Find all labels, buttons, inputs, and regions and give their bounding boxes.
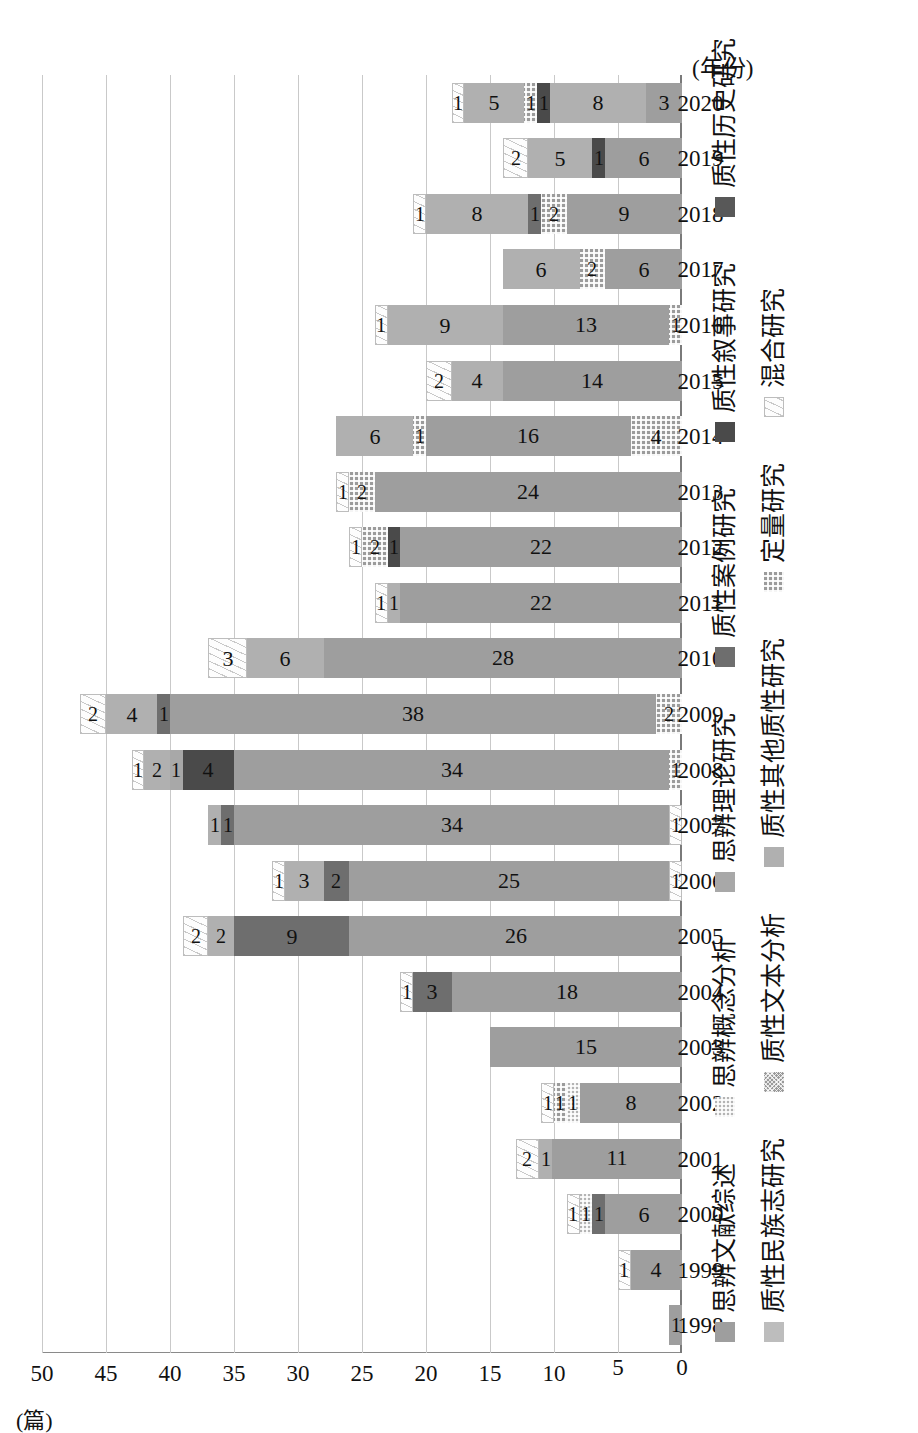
- bar-segment-value: 6: [638, 258, 649, 280]
- bar-segment-value: 1: [568, 1204, 578, 1224]
- bar-segment: 1: [375, 305, 388, 345]
- legend-label: 思辨概念分析: [712, 938, 737, 1088]
- bar-segment: 1: [618, 1250, 631, 1290]
- bar-segment: 1: [554, 1083, 567, 1123]
- bar-segment-value: 3: [222, 647, 233, 669]
- bar-segment: 9: [567, 194, 682, 234]
- bar-segment-value: 2: [88, 704, 98, 724]
- bar-segment: 22: [400, 583, 682, 623]
- bar-2011: 2211: [375, 583, 682, 623]
- bar-segment-value: 1: [671, 760, 681, 780]
- bar-segment: 2: [541, 194, 567, 234]
- bar-segment-value: 4: [472, 370, 483, 392]
- bar-segment: 1: [669, 1305, 682, 1345]
- bar-segment: 1: [539, 1139, 552, 1179]
- bar-segment: 5: [528, 138, 592, 178]
- bar-segment-value: 22: [530, 592, 552, 614]
- bar-segment: 4: [106, 694, 157, 734]
- x-tick-label-2003: 2003: [689, 1024, 712, 1070]
- legend-item-zxmzz[interactable]: 质性民族志研究: [761, 1138, 786, 1342]
- x-tick-label-2015: 2015: [689, 358, 712, 404]
- bar-2008: 1344121: [132, 750, 682, 790]
- bar-segment-value: 22: [530, 536, 552, 558]
- legend-label: 思辨理论研究: [712, 713, 737, 863]
- bar-segment-value: 4: [651, 1259, 662, 1281]
- bar-segment-value: 25: [498, 870, 520, 892]
- bar-1998: 1: [669, 1305, 682, 1345]
- legend-item-zxlsyj[interactable]: 质性历史研究: [712, 38, 737, 217]
- bar-segment: 1: [221, 805, 234, 845]
- bar-segment: 1: [388, 583, 401, 623]
- legend-label: 混合研究: [761, 288, 786, 388]
- legend-item-zxalyj[interactable]: 质性案例研究: [712, 488, 737, 667]
- bar-2004: 1831: [400, 972, 682, 1012]
- bar-segment: 1: [669, 861, 682, 901]
- bar-segment-value: 1: [338, 482, 348, 502]
- x-tick-label-2009: 2009: [689, 691, 712, 737]
- y-axis-title: (篇): [16, 1410, 53, 1432]
- bar-segment: 1: [580, 1194, 593, 1234]
- chart-legend: 思辨文献综述思辨概念分析思辨理论研究质性案例研究质性叙事研究质性历史研究质性民族…: [712, 72, 786, 1342]
- bar-segment: 1: [524, 83, 537, 123]
- legend-swatch-icon: [764, 397, 784, 417]
- bar-segment: 1: [541, 1083, 554, 1123]
- bar-segment: 13: [503, 305, 669, 345]
- bar-segment: 1: [452, 83, 465, 123]
- bar-1999: 41: [618, 1250, 682, 1290]
- gridline: [42, 75, 43, 1353]
- bar-segment-value: 1: [351, 537, 361, 557]
- y-tick-label: 45: [95, 1362, 118, 1385]
- bar-segment-value: 1: [376, 593, 386, 613]
- bar-segment: 1: [272, 861, 285, 901]
- legend-item-sbgnfx[interactable]: 思辨概念分析: [712, 938, 737, 1117]
- bar-segment-value: 2: [216, 926, 226, 946]
- bar-segment: 5: [464, 83, 524, 123]
- bar-segment-value: 1: [402, 982, 412, 1002]
- bar-segment-value: 5: [555, 147, 566, 169]
- legend-item-zxwbfx[interactable]: 质性文本分析: [761, 913, 786, 1092]
- bar-segment-value: 1: [530, 204, 540, 224]
- bar-segment-value: 1: [274, 871, 284, 891]
- bar-segment-value: 1: [159, 704, 169, 724]
- bar-2007: 13411: [208, 805, 682, 845]
- legend-item-zxxsyj[interactable]: 质性叙事研究: [712, 263, 737, 442]
- bar-segment-value: 1: [594, 148, 604, 168]
- bar-segment: 24: [375, 472, 682, 512]
- bar-segment: 1: [528, 194, 541, 234]
- bar-segment-value: 1: [539, 93, 549, 113]
- bar-2017: 626: [503, 249, 682, 289]
- legend-label: 质性民族志研究: [761, 1138, 786, 1313]
- legend-item-hhyj[interactable]: 混合研究: [761, 288, 786, 417]
- bar-segment-value: 9: [619, 203, 630, 225]
- legend-row: 思辨文献综述思辨概念分析思辨理论研究质性案例研究质性叙事研究质性历史研究: [712, 72, 737, 1342]
- bar-segment-value: 16: [517, 425, 539, 447]
- bar-segment-value: 2: [511, 148, 521, 168]
- x-tick-label-1998: 1998: [689, 1302, 712, 1348]
- legend-label: 定量研究: [761, 463, 786, 563]
- legend-item-dlyj[interactable]: 定量研究: [761, 463, 786, 592]
- bar-segment-value: 4: [203, 759, 214, 781]
- bar-segment: 1: [388, 527, 401, 567]
- bar-segment-value: 1: [619, 1260, 629, 1280]
- bar-segment-value: 8: [625, 1092, 636, 1114]
- bar-segment: 2: [208, 916, 234, 956]
- legend-item-sbllyj[interactable]: 思辨理论研究: [712, 713, 737, 892]
- bar-segment-value: 1: [376, 315, 386, 335]
- bar-segment-value: 2: [357, 482, 367, 502]
- bar-segment: 1: [567, 1083, 580, 1123]
- bar-segment: 1: [592, 138, 605, 178]
- bar-segment: 1: [413, 416, 426, 456]
- bar-segment-value: 34: [441, 814, 463, 836]
- bar-segment: 34: [234, 805, 669, 845]
- bar-2001: 1112: [516, 1139, 682, 1179]
- bar-segment-value: 1: [415, 426, 425, 446]
- bar-segment: 1: [537, 83, 550, 123]
- bar-segment: 18: [452, 972, 682, 1012]
- bar-segment-value: 13: [575, 314, 597, 336]
- legend-item-zxqtzx[interactable]: 质性其他质性研究: [761, 638, 786, 867]
- x-tick-label-2008: 2008: [689, 747, 712, 793]
- legend-item-sbwxzs[interactable]: 思辨文献综述: [712, 1163, 737, 1342]
- bar-segment-value: 2: [587, 259, 597, 279]
- y-tick-label: 35: [223, 1362, 246, 1385]
